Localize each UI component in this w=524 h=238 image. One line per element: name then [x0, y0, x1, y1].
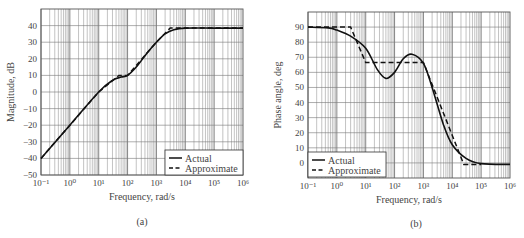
svg-text:−30: −30 [23, 137, 38, 147]
svg-text:10²: 10² [389, 181, 401, 191]
x-tick-labels: 10⁻¹10⁰10¹10²10³10⁴10⁵10⁶ [33, 178, 249, 188]
phase-plot: 010203040506070809010⁻¹10⁰10¹10²10³10⁴10… [272, 12, 516, 205]
x-tick-labels: 10⁻¹10⁰10¹10²10³10⁴10⁵10⁶ [300, 181, 516, 191]
svg-text:30: 30 [28, 37, 38, 47]
svg-text:40: 40 [28, 21, 38, 31]
svg-text:10⁻¹: 10⁻¹ [300, 181, 317, 191]
svg-text:10: 10 [28, 70, 38, 80]
svg-text:40: 40 [295, 98, 305, 108]
svg-text:10¹: 10¹ [93, 178, 105, 188]
svg-text:10²: 10² [122, 178, 134, 188]
svg-text:0: 0 [300, 158, 305, 168]
svg-text:70: 70 [295, 52, 305, 62]
svg-text:10⁰: 10⁰ [64, 178, 77, 188]
svg-text:−10: −10 [23, 104, 38, 114]
y-axis-label: Phase angle, deg [272, 62, 283, 129]
legend-label: Approximate [185, 163, 238, 174]
svg-text:0: 0 [33, 87, 38, 97]
svg-text:20: 20 [295, 128, 305, 138]
svg-text:10⁶: 10⁶ [504, 181, 516, 191]
caption-b: (b) [404, 218, 428, 229]
svg-text:10: 10 [295, 143, 305, 153]
x-axis-label: Frequency, rad/s [109, 191, 175, 202]
legend: ActualApproximate [308, 152, 386, 177]
legend: ActualApproximate [165, 150, 243, 175]
y-axis-label: Magnitude, dB [5, 62, 16, 122]
svg-text:10⁵: 10⁵ [208, 178, 220, 188]
svg-text:50: 50 [295, 82, 305, 92]
svg-text:10⁻¹: 10⁻¹ [33, 178, 50, 188]
bode-plots: −50−40−30−20−1001020304010⁻¹10⁰10¹10²10³… [0, 0, 524, 238]
svg-text:10¹: 10¹ [360, 181, 372, 191]
svg-text:−20: −20 [23, 120, 38, 130]
magnitude-plot: −50−40−30−20−1001020304010⁻¹10⁰10¹10²10³… [5, 9, 249, 202]
y-tick-labels: −50−40−30−20−10010203040 [23, 21, 38, 180]
svg-text:−40: −40 [23, 153, 38, 163]
legend-label: Approximate [328, 165, 381, 176]
svg-text:90: 90 [295, 22, 305, 32]
y-tick-labels: 0102030405060708090 [295, 22, 305, 168]
svg-text:10⁰: 10⁰ [331, 181, 344, 191]
x-axis-label: Frequency, rad/s [376, 194, 442, 205]
svg-text:30: 30 [295, 113, 305, 123]
svg-text:20: 20 [28, 54, 38, 64]
svg-text:60: 60 [295, 67, 305, 77]
svg-text:10⁴: 10⁴ [446, 181, 458, 191]
svg-text:10⁵: 10⁵ [475, 181, 487, 191]
svg-text:10³: 10³ [151, 178, 163, 188]
svg-text:10⁶: 10⁶ [237, 178, 249, 188]
svg-text:10³: 10³ [418, 181, 430, 191]
svg-text:10⁴: 10⁴ [179, 178, 191, 188]
caption-a: (a) [130, 216, 154, 227]
svg-text:80: 80 [295, 37, 305, 47]
